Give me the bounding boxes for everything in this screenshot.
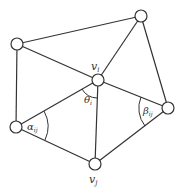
edge-tr-r (141, 16, 168, 108)
label-vi: vi (91, 60, 99, 74)
alpha-arc (44, 111, 48, 140)
edge-l-vj (16, 127, 95, 164)
node-top-left (11, 38, 23, 50)
edge-tl-l (16, 44, 17, 127)
node-left (10, 121, 22, 133)
edge-vi-vj (95, 80, 98, 164)
edge-r-vj (95, 108, 168, 164)
node-vi (92, 74, 104, 86)
label-beta: βij (142, 105, 153, 118)
edge-tl-vi (17, 44, 98, 80)
mesh-diagram: vi vj θi αij βij (0, 0, 185, 193)
edge-tl-tr (17, 16, 141, 44)
edges (16, 16, 168, 164)
node-vj (89, 158, 101, 170)
label-vj: vj (89, 173, 98, 187)
nodes (10, 10, 174, 170)
label-alpha: αij (27, 121, 38, 134)
angle-arcs (44, 89, 145, 140)
label-theta: θi (84, 94, 92, 106)
node-right (162, 102, 174, 114)
edge-vi-r (98, 80, 168, 108)
node-top-right (135, 10, 147, 22)
edge-tr-vi (98, 16, 141, 80)
